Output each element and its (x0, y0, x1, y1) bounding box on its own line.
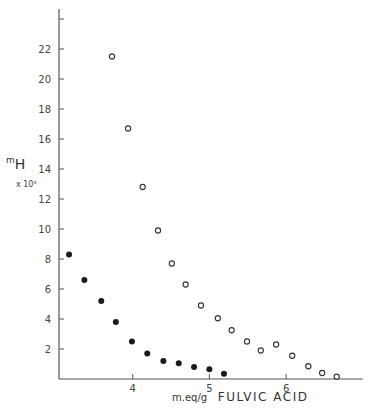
filled-point (144, 351, 150, 357)
y-axis-scale: x 10⁵ (16, 180, 37, 189)
y-tick-label: 6 (45, 284, 51, 295)
filled-point (98, 298, 104, 304)
filled-point (191, 364, 197, 370)
filled-point (81, 277, 87, 283)
open-point (198, 303, 203, 308)
y-tick-label: 2 (45, 344, 51, 355)
open-point (125, 126, 130, 131)
filled-point (206, 366, 212, 372)
open-point (169, 261, 174, 266)
open-point (140, 184, 145, 189)
y-label-main: H (15, 156, 26, 172)
open-point (274, 342, 279, 347)
x-tick-label: 4 (130, 383, 136, 394)
filled-point (66, 252, 72, 258)
open-point (109, 54, 114, 59)
filled-point (113, 319, 119, 325)
axes: 246810121416182022456 (38, 9, 363, 394)
open-point (258, 348, 263, 353)
filled-point (176, 360, 182, 366)
y-label-prefix: m (6, 155, 15, 165)
y-tick-label: 8 (45, 254, 51, 265)
filled-point (160, 358, 166, 364)
scatter-chart: 246810121416182022456 (0, 0, 375, 416)
open-point (320, 370, 325, 375)
y-tick-label: 20 (38, 74, 51, 85)
x-label-unit: m.eq/g (172, 392, 207, 403)
x-axis-label: m.eq/g FULVIC ACID (172, 390, 308, 404)
open-point (244, 339, 249, 344)
y-tick-label: 22 (38, 44, 51, 55)
y-tick-label: 18 (38, 104, 51, 115)
x-label-text: FULVIC ACID (218, 390, 309, 404)
y-tick-label: 10 (38, 224, 51, 235)
open-point (215, 316, 220, 321)
open-point (306, 364, 311, 369)
y-tick-label: 14 (38, 164, 51, 175)
y-axis-label: mH (6, 156, 25, 172)
y-tick-label: 4 (45, 314, 51, 325)
open-point (155, 228, 160, 233)
open-point (290, 353, 295, 358)
open-point (183, 282, 188, 287)
open-point (229, 328, 234, 333)
open-point (334, 374, 339, 379)
y-tick-label: 16 (38, 134, 51, 145)
filled-point (129, 339, 135, 345)
data-points (66, 54, 339, 379)
y-tick-label: 12 (38, 194, 51, 205)
filled-point (221, 371, 227, 377)
